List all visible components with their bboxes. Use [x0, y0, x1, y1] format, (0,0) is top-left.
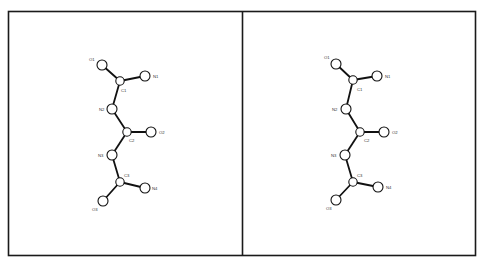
atom-o2 — [379, 127, 389, 137]
atom-c1 — [116, 77, 124, 85]
atom-label-o2: O2 — [392, 130, 398, 135]
atom-label-c3: C3 — [357, 173, 363, 178]
atom-label-c2: C2 — [364, 138, 370, 143]
atom-label-n4: N4 — [152, 186, 158, 191]
atom-label-c3: C3 — [124, 173, 130, 178]
atom-n3 — [340, 150, 350, 160]
atom-label-c2: C2 — [129, 138, 135, 143]
atom-n1 — [372, 71, 382, 81]
atom-label-n1: N1 — [385, 74, 391, 79]
atom-o1 — [331, 59, 341, 69]
atom-c2 — [356, 128, 364, 136]
atom-label-o3: O3 — [92, 207, 98, 212]
atom-label-c1: C1 — [357, 87, 363, 92]
atom-c2 — [123, 128, 131, 136]
stereo-diagram: O1C1N1N2C2O2N3C3N4O3 O1C1N1N2C2O2N3C3N4O… — [0, 0, 485, 270]
atom-o2 — [146, 127, 156, 137]
atom-o1 — [97, 60, 107, 70]
atom-n1 — [140, 71, 150, 81]
atom-n2 — [107, 104, 117, 114]
atom-n3 — [107, 150, 117, 160]
atom-c1 — [349, 76, 357, 84]
atom-label-n3: N3 — [331, 153, 337, 158]
right-stereo-panel: O1C1N1N2C2O2N3C3N4O3 — [324, 55, 398, 211]
atom-n2 — [341, 104, 351, 114]
atom-c3 — [116, 178, 124, 186]
atom-n4 — [140, 183, 150, 193]
atom-o3 — [98, 196, 108, 206]
atom-n4 — [373, 182, 383, 192]
atom-label-o2: O2 — [159, 130, 165, 135]
atom-label-o1: O1 — [324, 55, 330, 60]
atom-label-n2: N2 — [332, 107, 338, 112]
atom-label-n1: N1 — [153, 74, 159, 79]
atom-label-n2: N2 — [99, 107, 105, 112]
atom-label-n3: N3 — [98, 153, 104, 158]
atom-c3 — [349, 178, 357, 186]
left-stereo-panel: O1C1N1N2C2O2N3C3N4O3 — [89, 57, 165, 212]
atom-label-c1: C1 — [121, 88, 127, 93]
atom-o3 — [331, 195, 341, 205]
atom-label-o1: O1 — [89, 57, 95, 62]
atom-label-n4: N4 — [386, 185, 392, 190]
atom-label-o3: O3 — [326, 206, 332, 211]
